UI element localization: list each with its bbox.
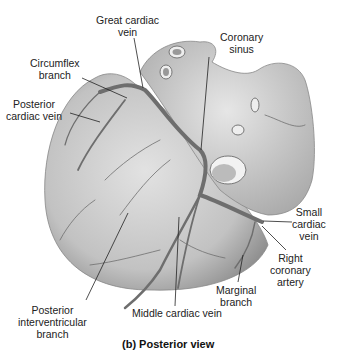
label-circumflex-branch: Circumflex branch: [30, 57, 80, 81]
label-great-cardiac-vein: Great cardiac vein: [96, 14, 159, 38]
label-coronary-sinus: Coronary sinus: [220, 31, 263, 55]
label-posterior-interventricular-branch: Posterior interventricular branch: [18, 304, 87, 340]
label-small-cardiac-vein: Small cardiac vein: [292, 206, 326, 242]
label-marginal-branch: Marginal branch: [216, 284, 256, 308]
label-middle-cardiac-vein: Middle cardiac vein: [132, 307, 222, 319]
label-posterior-cardiac-vein: Posterior cardiac vein: [6, 98, 62, 122]
heart-illustration: [0, 0, 338, 356]
label-right-coronary-artery: Right coronary artery: [270, 252, 311, 288]
figure-caption: (b) Posterior view: [122, 338, 214, 350]
